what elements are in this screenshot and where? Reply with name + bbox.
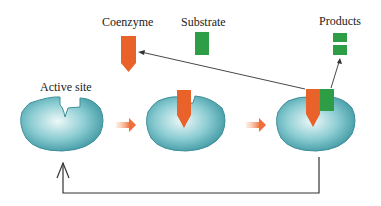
enzyme-with-coenzyme <box>147 90 225 151</box>
active-site-label: Active site <box>40 80 92 95</box>
reaction-arrow-2 <box>246 118 266 132</box>
reaction-arrow-1 <box>116 118 136 132</box>
coenzyme-label: Coenzyme <box>102 15 153 30</box>
product-release-arrow <box>331 58 342 88</box>
products-label: Products <box>319 14 361 29</box>
coenzyme-shape <box>121 36 136 72</box>
substrate-label: Substrate <box>181 15 226 30</box>
recycle-arrow <box>57 157 319 193</box>
enzyme-free <box>21 97 103 151</box>
substrate-shape <box>195 32 209 55</box>
product-shape-2 <box>333 45 347 55</box>
coenzyme-release-arrow <box>138 50 305 89</box>
bound-substrate <box>320 89 334 111</box>
enzyme-with-coenzyme-substrate <box>277 89 355 151</box>
product-shape-1 <box>333 33 347 42</box>
enzyme-diagram <box>0 0 381 206</box>
